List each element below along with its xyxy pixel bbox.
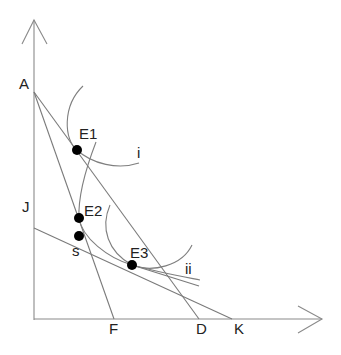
- budget-line-j-k: [34, 228, 232, 319]
- label-s: s: [72, 242, 80, 259]
- label-f: F: [109, 320, 118, 337]
- label-a: A: [19, 75, 29, 92]
- label-j: J: [22, 198, 30, 215]
- economics-diagram: A J F D K E1 E2 E3 s i ii: [0, 0, 341, 355]
- label-e2: E2: [84, 202, 102, 219]
- point-e3: [127, 260, 137, 270]
- point-e2: [74, 213, 84, 223]
- point-s: [74, 231, 84, 241]
- label-i: i: [137, 144, 140, 161]
- label-k: K: [234, 320, 244, 337]
- budget-line-a-d: [34, 92, 199, 319]
- indifference-curve-ii: [106, 205, 192, 268]
- point-e1: [72, 145, 82, 155]
- label-ii: ii: [185, 260, 192, 277]
- label-d: D: [196, 320, 207, 337]
- label-e3: E3: [130, 244, 148, 261]
- label-e1: E1: [79, 125, 97, 142]
